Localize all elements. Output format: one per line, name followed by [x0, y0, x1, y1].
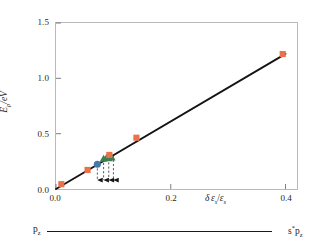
- x-tick-label-0.2: 0.2: [153, 193, 189, 203]
- plot-area: [55, 22, 298, 190]
- marker-square: [58, 181, 64, 187]
- y-tick-label-1.5: 1.5: [23, 17, 49, 27]
- figure-root: 1.5 1.0 0.5 0.0 Ep/eV: [0, 0, 321, 252]
- energy-level-label-left-sub: z: [38, 229, 41, 236]
- x-axis-title: δεs/εs: [205, 193, 226, 205]
- x-tick-label-0.0: 0.0: [37, 193, 73, 203]
- marker-circle: [94, 161, 101, 168]
- y-axis-ticks: [56, 23, 61, 134]
- energy-level-label-left: pz: [33, 224, 41, 236]
- x-axis-title-subscript-2: s: [224, 198, 227, 205]
- energy-level-label-right: s*pz: [288, 224, 303, 238]
- marker-square: [280, 51, 286, 57]
- energy-level-line: [47, 231, 272, 232]
- y-axis-title-subscript: p: [4, 104, 11, 107]
- y-axis-title-unit: /eV: [0, 91, 9, 104]
- y-tick-label-1.0: 1.0: [23, 73, 49, 83]
- energy-level-label-right-sub: z: [300, 231, 303, 238]
- marker-square: [106, 152, 112, 158]
- marker-square: [133, 135, 139, 141]
- blue-circle-markers: [94, 161, 101, 168]
- y-axis-title: Ep/eV: [0, 91, 11, 113]
- y-axis-title-symbol: E: [0, 107, 9, 113]
- marker-square: [84, 167, 90, 173]
- plot-canvas: [56, 23, 297, 189]
- x-axis-title-delta: δ: [205, 193, 209, 203]
- x-axis-ticks: [56, 184, 285, 189]
- energy-level-diagram: pz s*pz: [0, 214, 321, 252]
- x-tick-label-0.4: 0.4: [268, 193, 304, 203]
- y-tick-label-0.5: 0.5: [23, 129, 49, 139]
- x-axis-tick-labels: 0.0 0.2 0.4: [0, 193, 321, 207]
